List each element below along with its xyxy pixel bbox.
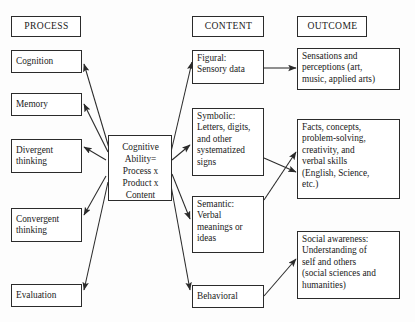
column-header-outcome: OUTCOME: [297, 16, 367, 37]
content-box-behavioral: Behavioral: [192, 285, 264, 308]
content-box-semantic: Semantic: Verbal meanings or ideas: [192, 196, 264, 253]
outcome-box-facts-concepts: Facts, concepts, problem-solving, creati…: [297, 119, 400, 199]
process-box-convergent-thinking: Convergent thinking: [11, 208, 82, 242]
column-header-content: CONTENT: [192, 16, 264, 37]
content-box-symbolic: Symbolic: Letters, digits, and other sys…: [192, 108, 264, 176]
center-box-cognitive-ability: Cognitive Ability= Process x Product x C…: [108, 135, 172, 201]
column-header-process: PROCESS: [11, 16, 81, 37]
process-box-memory: Memory: [11, 93, 82, 116]
process-box-evaluation: Evaluation: [11, 284, 82, 307]
content-box-figural: Figural: Sensory data: [192, 50, 264, 84]
outcome-box-social-awareness: Social awareness: Understanding of self …: [297, 231, 400, 299]
process-box-divergent-thinking: Divergent thinking: [11, 139, 82, 173]
process-box-cognition: Cognition: [11, 50, 82, 73]
diagram-canvas: PROCESS CONTENT OUTCOME Cognition Memory…: [0, 0, 415, 322]
outcome-box-sensations-perceptions: Sensations and perceptions (art, music, …: [297, 48, 400, 90]
